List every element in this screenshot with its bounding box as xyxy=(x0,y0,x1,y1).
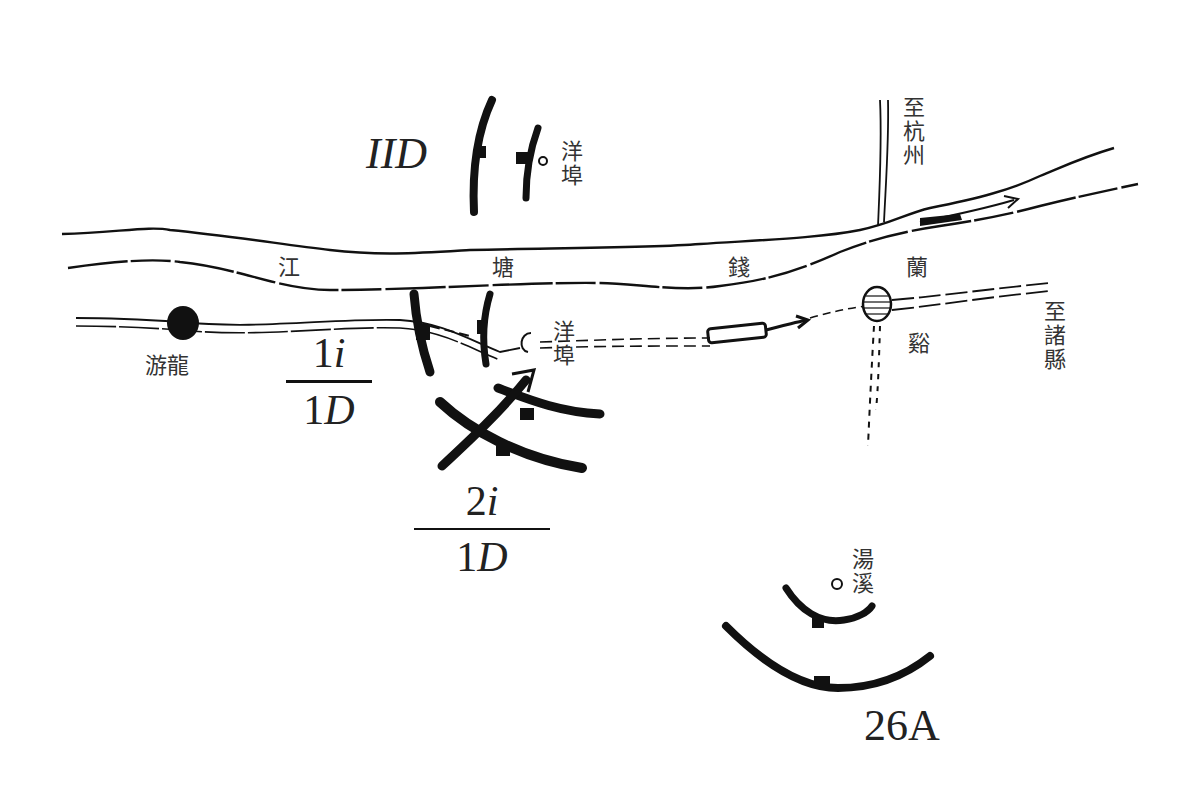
river-label-qian: 錢 xyxy=(728,256,750,280)
road-south-lanxi xyxy=(868,326,874,446)
unit-label-26a: 26A xyxy=(864,700,940,751)
place-tangxi: 湯溪 xyxy=(851,548,875,596)
train-icon xyxy=(707,323,766,343)
unit-label-iid: IID xyxy=(366,128,427,179)
frac1-num-digit: 1 xyxy=(313,330,334,376)
village-yangbu-south-icon xyxy=(522,333,531,352)
place-yangbu-south: 洋埠 xyxy=(552,320,576,368)
frac2-den-digit: 1 xyxy=(456,534,477,580)
road-to-zhuxian xyxy=(892,283,1050,300)
town-youlong-icon xyxy=(167,306,199,340)
place-to-hangzhou: 至杭州 xyxy=(902,96,926,168)
frac1-den-letter: D xyxy=(324,387,354,433)
village-yangbu-north-icon xyxy=(539,157,547,165)
village-tangxi-icon xyxy=(832,579,842,589)
place-lanxi-bottom: 谿 xyxy=(908,332,930,356)
river-label-jiang: 江 xyxy=(278,256,300,280)
place-yangbu-north: 洋埠 xyxy=(560,140,584,188)
place-lanxi-top: 蘭 xyxy=(906,256,928,280)
unit-fraction-2i-1d: 2i 1D xyxy=(414,478,550,580)
place-to-zhuxian: 至諸縣 xyxy=(1043,300,1067,372)
frac2-num-letter: i xyxy=(487,478,499,524)
place-youlong: 游龍 xyxy=(145,354,189,378)
frac1-den-digit: 1 xyxy=(303,387,324,433)
unit-fraction-1i-1d: 1i 1D xyxy=(286,330,372,433)
frac2-den-letter: D xyxy=(477,534,507,580)
frac2-num-digit: 2 xyxy=(466,478,487,524)
frac1-num-letter: i xyxy=(334,330,346,376)
river-north-bank xyxy=(62,148,1114,253)
frac2-bar xyxy=(414,528,550,530)
map-drawing xyxy=(0,0,1202,800)
town-lanxi-icon xyxy=(863,287,891,321)
frac1-bar xyxy=(286,380,372,383)
road-to-hangzhou xyxy=(878,100,881,226)
river-label-tang: 塘 xyxy=(492,256,514,280)
